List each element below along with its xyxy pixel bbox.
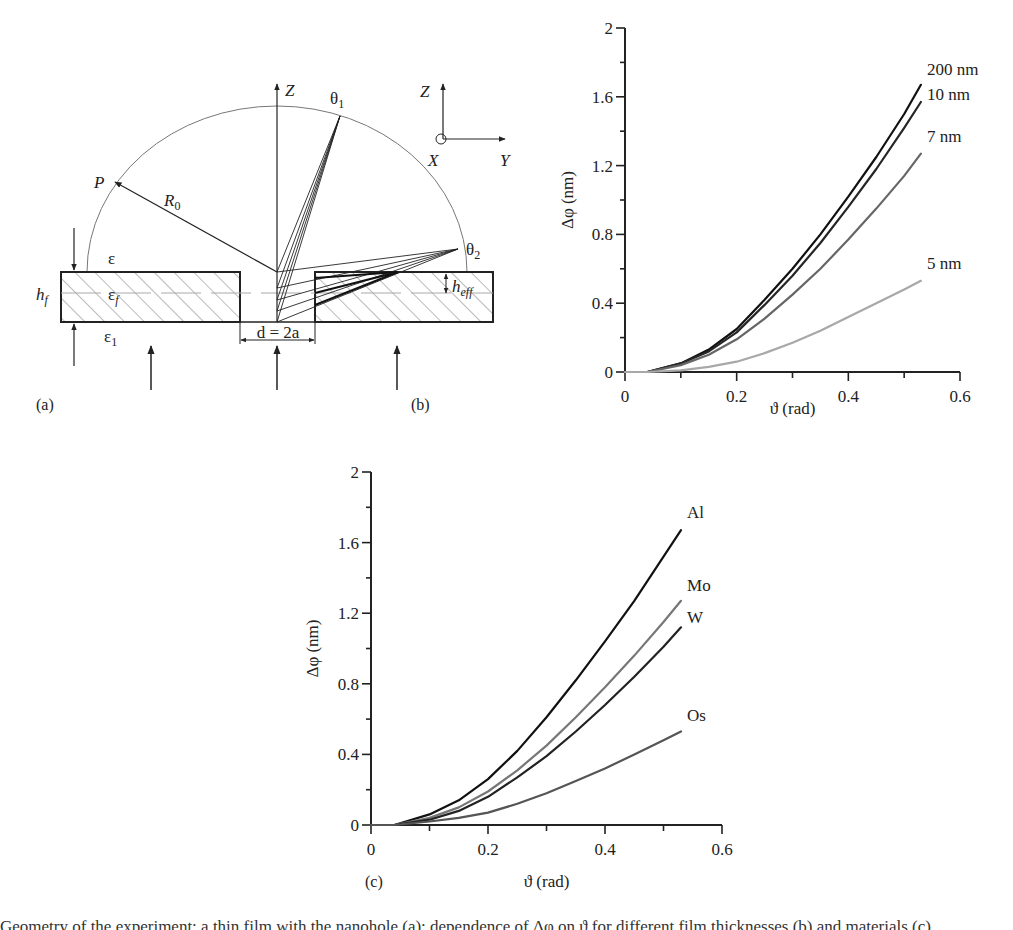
series-label: 10 nm — [927, 85, 970, 104]
series-line-os — [371, 732, 681, 826]
y-tick-label: 2 — [351, 463, 360, 482]
series-label: Mo — [687, 576, 711, 595]
epsilon-1-label: ε1 — [104, 327, 117, 349]
x-axis-label: ϑ (rad) — [524, 872, 570, 891]
y-tick-label: 2 — [605, 19, 614, 38]
chart-c: 00.20.40.600.40.81.21.62ϑ (rad)Δφ (nm)Al… — [303, 463, 733, 891]
film-left — [61, 272, 240, 322]
figure-canvas: Z P R0 θ1 θ2 heff — [0, 0, 1013, 930]
x-axis-label: ϑ (rad) — [770, 399, 816, 418]
z-axis-label: Z — [285, 81, 295, 100]
series-line-7-nm — [625, 154, 921, 372]
series-label: W — [687, 608, 704, 627]
epsilon-label: ε — [108, 249, 115, 268]
theta2-label: θ2 — [466, 240, 480, 262]
y-tick-label: 0.4 — [592, 294, 614, 313]
series-label: Al — [687, 503, 704, 522]
panel-a-diagram: Z P R0 θ1 θ2 heff — [36, 81, 511, 414]
y-tick-label: 0.8 — [592, 225, 613, 244]
panel-b-label: (b) — [411, 396, 430, 414]
figure-caption: Geometry of the experiment: a thin film … — [0, 912, 1013, 930]
coord-x-label: X — [427, 151, 439, 170]
y-axis-label: Δφ (nm) — [303, 619, 322, 677]
panel-a-label: (a) — [36, 396, 54, 414]
panel-c-label: (c) — [365, 873, 383, 891]
x-tick-label: 0 — [367, 840, 376, 859]
r0-label: R0 — [163, 191, 180, 213]
point-p-label: P — [93, 173, 104, 192]
y-tick-label: 1.2 — [592, 157, 613, 176]
series-line-200-nm — [625, 85, 921, 372]
series-label: 7 nm — [927, 127, 961, 146]
x-tick-label: 0.2 — [477, 840, 498, 859]
x-tick-label: 0 — [621, 387, 630, 406]
hole-width-label: d = 2a — [257, 323, 300, 342]
series-line-mo — [371, 601, 681, 825]
y-tick-label: 1.6 — [338, 534, 359, 553]
x-tick-label: 0.4 — [838, 387, 860, 406]
coord-y-label: Y — [500, 151, 511, 170]
x-tick-label: 0.4 — [594, 840, 616, 859]
x-tick-label: 0.6 — [711, 840, 732, 859]
incident-light-arrows — [151, 346, 397, 390]
radius-r0-arrow — [115, 182, 277, 272]
y-tick-label: 0.4 — [338, 745, 360, 764]
coord-z-label: Z — [420, 82, 430, 101]
series-line-5-nm — [625, 281, 921, 372]
series-line-10-nm — [625, 102, 921, 372]
series-label: 5 nm — [927, 254, 961, 273]
coordinate-system: Z X Y — [420, 82, 511, 170]
x-tick-label: 0.6 — [949, 387, 970, 406]
series-label: Os — [687, 706, 706, 725]
chart-b: 00.20.40.600.40.81.21.62ϑ (rad)Δφ (nm)20… — [558, 19, 978, 418]
series-label: 200 nm — [927, 60, 978, 79]
y-tick-label: 0.8 — [338, 675, 359, 694]
h-f-label: hf — [36, 285, 50, 307]
y-tick-label: 0 — [351, 816, 360, 835]
y-axis-label: Δφ (nm) — [558, 171, 577, 229]
y-tick-label: 1.6 — [592, 88, 613, 107]
y-tick-label: 0 — [605, 363, 614, 382]
x-tick-label: 0.2 — [726, 387, 747, 406]
theta1-label: θ1 — [330, 89, 344, 111]
y-tick-label: 1.2 — [338, 604, 359, 623]
